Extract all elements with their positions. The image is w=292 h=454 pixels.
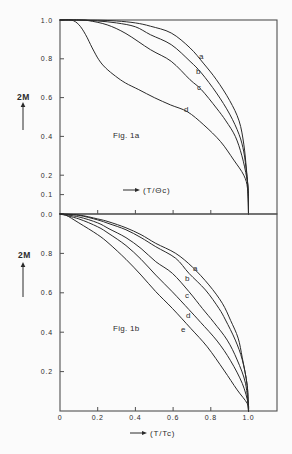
curve-label-e: e <box>181 325 186 334</box>
y-tick-label: 1.0 <box>41 17 53 24</box>
curve-label-b: b <box>196 67 201 76</box>
x-tick-label: 0.6 <box>167 414 179 421</box>
y-tick-label: 0.2 <box>41 368 53 375</box>
curve-c <box>60 214 249 411</box>
curve-label-a: a <box>193 264 198 273</box>
curve-label-c: c <box>197 83 201 92</box>
curve-label-d: d <box>186 311 190 320</box>
panel-title: Fig. 1a <box>113 131 140 140</box>
curve-label-d: d <box>184 105 188 114</box>
y-tick-label: 0.4 <box>41 329 53 336</box>
curve-a <box>60 214 249 411</box>
curve-label-a: a <box>199 52 204 61</box>
y-tick-label: 0.8 <box>41 55 53 62</box>
plot-frame <box>60 214 277 411</box>
y-tick-label: 0.6 <box>41 94 53 101</box>
y-tick-label: 0.0 <box>41 211 53 218</box>
y-tick-label: 0.2 <box>41 172 53 179</box>
up-arrow-head-icon <box>21 262 26 267</box>
panel-title: Fig. 1b <box>113 324 140 333</box>
curve-c <box>60 20 249 214</box>
x-tick-label: 1.0 <box>242 414 254 421</box>
y-tick-label: 0.8 <box>41 250 53 257</box>
right-arrow-head-icon <box>135 188 140 192</box>
curve-b <box>60 20 249 214</box>
panel-fig-1b: 0.80.60.40.200.20.40.60.81.0abcde2M(T/Tc… <box>18 214 277 438</box>
curve-label-b: b <box>185 274 190 283</box>
right-arrow-head-icon <box>142 431 147 435</box>
curve-label-c: c <box>185 291 189 300</box>
curve-a <box>60 20 249 214</box>
curve-b <box>60 214 249 411</box>
x-axis-label: (T/Θc) <box>143 186 170 195</box>
y-tick-label: 0.6 <box>41 289 53 296</box>
x-tick-label: 0.2 <box>92 414 104 421</box>
x-tick-label: 0.8 <box>205 414 217 421</box>
y-axis-label: 2M <box>17 92 30 102</box>
y-axis-label: 2M <box>18 250 31 260</box>
up-arrow-head-icon <box>21 102 26 107</box>
curve-d <box>60 20 249 214</box>
y-tick-label: 0.1 <box>41 191 53 198</box>
curve-d <box>60 214 249 411</box>
x-tick-label: 0 <box>58 414 63 421</box>
curve-e <box>60 214 249 411</box>
y-tick-label: 0.4 <box>41 133 53 140</box>
x-axis-label: (T/Tc) <box>150 429 175 438</box>
magnetization-vs-temperature-figure: 1.00.80.60.40.20.10.0abcd2M(T/Θc)Fig. 1a… <box>0 0 292 454</box>
x-tick-label: 0.4 <box>129 414 141 421</box>
panel-fig-1a: 1.00.80.60.40.20.10.0abcd2M(T/Θc)Fig. 1a <box>17 17 277 218</box>
